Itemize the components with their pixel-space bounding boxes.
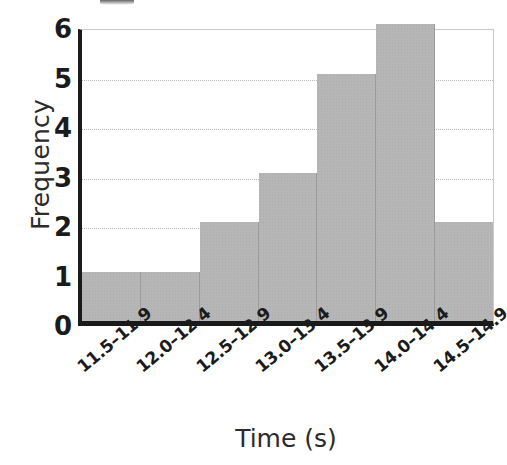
x-tick-slot: 14.0–14.4 (375, 326, 434, 422)
bars-layer (82, 30, 493, 321)
x-tick-slot: 12.5–12.9 (197, 326, 256, 422)
y-tick-label: 6 (48, 16, 72, 42)
y-tick-label: 1 (48, 264, 72, 290)
y-tick-label: 5 (48, 66, 72, 92)
bar (259, 173, 318, 322)
x-tick-slot: 13.5–13.9 (316, 326, 375, 422)
bar (435, 222, 493, 321)
cropped-title-remnant (100, 0, 134, 5)
x-tick-slot: 14.5–14.9 (435, 326, 494, 422)
y-axis-tick-labels: 0123456 (42, 29, 72, 326)
x-tick-slot: 12.0–12.4 (137, 326, 196, 422)
plot-area (78, 29, 494, 326)
bar (376, 24, 435, 321)
x-tick-slot: 13.0–13.4 (256, 326, 315, 422)
y-tick-label: 2 (48, 214, 72, 240)
y-tick-label: 0 (48, 313, 72, 339)
x-axis-title: Time (s) (78, 424, 494, 453)
histogram-figure: Frequency 0123456 11.5–11.912.0–12.412.5… (0, 0, 507, 465)
x-axis-tick-labels: 11.5–11.912.0–12.412.5–12.913.0–13.413.5… (78, 326, 494, 422)
y-tick-label: 4 (48, 115, 72, 141)
bar (317, 74, 376, 322)
y-tick-label: 3 (48, 165, 72, 191)
x-tick-slot: 11.5–11.9 (78, 326, 137, 422)
bar (200, 222, 259, 321)
